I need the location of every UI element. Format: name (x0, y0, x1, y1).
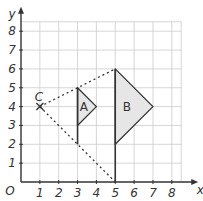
y-axis-label: y (7, 7, 16, 21)
x-tick-label: 3 (74, 186, 82, 200)
x-tick-label: 2 (55, 186, 63, 200)
y-axis-arrow-icon (18, 7, 24, 14)
x-tick-label: 7 (149, 186, 157, 200)
shape-label-b: B (123, 100, 131, 114)
grid-lines (21, 22, 181, 182)
y-tick-label: 4 (8, 100, 16, 114)
axes (18, 7, 198, 185)
y-tick-label: 6 (8, 62, 16, 76)
y-tick-label: 7 (8, 43, 16, 57)
x-tick-label: 1 (36, 186, 44, 200)
coordinate-grid-diagram: AB 1234567812345678Oxy C (0, 0, 203, 201)
origin-label: O (5, 184, 14, 198)
x-tick-label: 4 (93, 186, 101, 200)
x-tick-label: 8 (168, 186, 176, 200)
x-axis-label: x (196, 183, 203, 197)
shape-label-a: A (80, 100, 89, 114)
x-tick-label: 6 (130, 186, 138, 200)
centre-of-enlargement: C (35, 90, 44, 111)
centre-label: C (35, 90, 44, 104)
y-tick-label: 8 (8, 24, 16, 38)
y-tick-label: 1 (8, 156, 16, 170)
y-tick-label: 5 (8, 81, 16, 95)
x-tick-label: 5 (111, 186, 119, 200)
y-tick-label: 3 (8, 118, 16, 132)
y-tick-label: 2 (8, 137, 16, 151)
